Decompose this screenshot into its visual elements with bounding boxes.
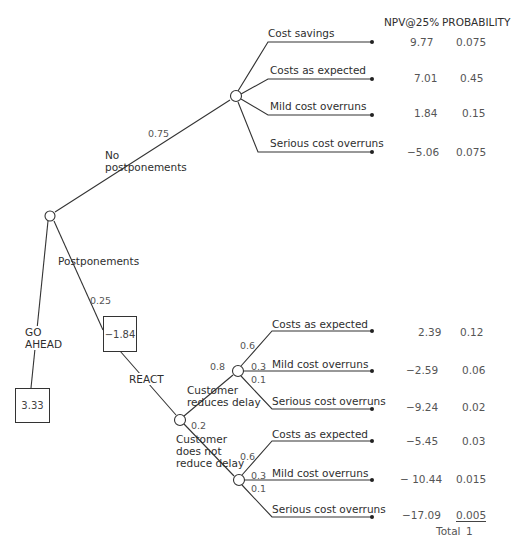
probability-value: 0.12 xyxy=(460,326,483,338)
reduces-delay-label-line1: Customer xyxy=(187,384,238,396)
reduces-delay-node xyxy=(233,366,244,377)
outcome-label: Costs as expected xyxy=(272,318,368,330)
probability-column-header: PROBABILITY xyxy=(442,16,510,28)
root-chance-node xyxy=(45,211,55,221)
npv-value: −9.24 xyxy=(406,401,438,413)
npv-value: 7.01 xyxy=(414,72,437,84)
probability-value: 0.45 xyxy=(460,72,483,84)
branch-probability: 0.6 xyxy=(240,340,255,352)
go-ahead-label-line2: AHEAD xyxy=(25,338,62,350)
outcome-label: Costs as expected xyxy=(270,64,366,76)
outcome-label: Mild cost overruns xyxy=(270,100,366,112)
react-label: REACT xyxy=(129,373,164,385)
go-ahead-label-line1: GO xyxy=(25,326,41,338)
react-decision-box: −1.84 xyxy=(103,316,137,352)
reduces-delay-probability: 0.8 xyxy=(210,361,225,373)
branch-probability: 0.3 xyxy=(251,470,266,482)
probability-value: 0.075 xyxy=(456,146,486,158)
probability-value: 0.015 xyxy=(456,473,486,485)
probability-value: 0.03 xyxy=(462,435,485,447)
branch-probability: 0.3 xyxy=(251,361,266,373)
npv-value: − 10.44 xyxy=(400,473,442,485)
no-postponements-label-line2: postponements xyxy=(105,161,187,173)
probability-value: 0.02 xyxy=(462,401,485,413)
not-reduce-delay-label-line2: does not xyxy=(176,445,222,457)
branch-probability: 0.6 xyxy=(240,451,255,463)
npv-value: 2.39 xyxy=(418,326,441,338)
npv-value: 1.84 xyxy=(414,107,437,119)
not-reduce-delay-label-line3: reduce delay xyxy=(176,457,244,469)
npv-value: −5.45 xyxy=(406,435,438,447)
no-postponements-label-line1: No xyxy=(105,149,119,161)
npv-value: 9.77 xyxy=(410,36,433,48)
outcome-label: Costs as expected xyxy=(272,428,368,440)
go-ahead-decision-box: 3.33 xyxy=(15,388,50,423)
not-reduce-delay-label-line1: Customer xyxy=(176,433,227,445)
probability-value: 0.075 xyxy=(456,36,486,48)
probability-value: 0.15 xyxy=(462,107,485,119)
reduces-delay-label-line2: reduces delay xyxy=(187,396,261,408)
branch-probability: 0.1 xyxy=(251,374,266,386)
outcome-label: Serious cost overruns xyxy=(270,137,384,149)
no-postponements-probability: 0.75 xyxy=(148,128,169,140)
decision-tree-lines xyxy=(0,0,516,551)
postponements-probability: 0.25 xyxy=(90,295,111,307)
outcome-label: Mild cost overruns xyxy=(272,467,368,479)
npv-value: −17.09 xyxy=(402,509,441,521)
top-chance-node xyxy=(231,91,242,102)
npv-column-header: NPV@25% xyxy=(384,16,439,28)
npv-value: −2.59 xyxy=(406,364,438,376)
probability-value: 0.06 xyxy=(462,364,485,376)
total-label: Total xyxy=(436,525,461,537)
outcome-label: Serious cost overruns xyxy=(272,503,386,515)
branch-probability: 0.1 xyxy=(251,483,266,495)
npv-value: −5.06 xyxy=(407,146,439,158)
not-reduce-delay-probability: 0.2 xyxy=(191,420,206,432)
probability-value: 0.005 xyxy=(456,509,486,522)
outcome-label: Mild cost overruns xyxy=(272,358,368,370)
outcome-label: Serious cost overruns xyxy=(272,395,386,407)
outcome-label: Cost savings xyxy=(268,27,335,39)
postponements-label: Postponements xyxy=(58,255,139,267)
react-chance-node xyxy=(175,415,186,426)
total-value: 1 xyxy=(466,525,473,537)
not-reduce-delay-node xyxy=(234,475,245,486)
